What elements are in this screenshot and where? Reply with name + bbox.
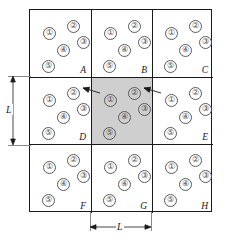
cell-label-A: A <box>80 65 86 75</box>
cell-E: E ①②③④⑤ <box>152 77 213 144</box>
marker-2: ② <box>67 87 80 100</box>
marker-1: ① <box>104 161 117 174</box>
marker-5: ⑤ <box>42 60 55 73</box>
marker-1: ① <box>43 94 56 107</box>
marker-2: ② <box>128 154 141 167</box>
marker-3: ③ <box>77 170 90 183</box>
marker-3: ③ <box>199 103 212 116</box>
cell-label-H: H <box>201 201 208 211</box>
dimension-extension-right <box>151 212 152 231</box>
marker-4: ④ <box>57 111 70 124</box>
marker-3: ③ <box>199 170 212 183</box>
marker-3: ③ <box>138 103 151 116</box>
marker-2: ② <box>189 154 202 167</box>
marker-2: ② <box>67 20 80 33</box>
marker-2: ② <box>128 20 141 33</box>
cell-label-D: D <box>79 132 86 142</box>
cell-center-shaded: ①②③④⑤ <box>91 77 152 144</box>
marker-1: ① <box>104 94 117 107</box>
dimension-label-vertical: L <box>5 104 13 115</box>
cell-A: A ①②③④⑤ <box>30 10 91 77</box>
marker-3: ③ <box>77 103 90 116</box>
marker-5: ⑤ <box>164 194 177 207</box>
marker-4: ④ <box>179 178 192 191</box>
periodic-cell-figure: A ①②③④⑤ B ①②③④⑤ C ①②③④⑤ D ①②③④⑤ ①②③④⑤ E … <box>0 0 230 241</box>
marker-5: ⑤ <box>164 60 177 73</box>
dimension-extension-left <box>90 212 91 231</box>
marker-4: ④ <box>118 111 131 124</box>
grid-divider-vertical-1 <box>91 10 92 213</box>
marker-3: ③ <box>138 170 151 183</box>
cell-label-C: C <box>202 65 208 75</box>
cell-label-E: E <box>202 132 208 142</box>
marker-2: ② <box>189 87 202 100</box>
marker-2: ② <box>67 154 80 167</box>
cell-label-G: G <box>140 201 147 211</box>
marker-1: ① <box>165 161 178 174</box>
cell-D: D ①②③④⑤ <box>30 77 91 144</box>
marker-4: ④ <box>57 178 70 191</box>
marker-1: ① <box>43 27 56 40</box>
marker-4: ④ <box>118 178 131 191</box>
grid-divider-horizontal-1 <box>30 77 213 78</box>
dimension-extension-top <box>8 76 31 77</box>
marker-5: ⑤ <box>164 127 177 140</box>
marker-4: ④ <box>118 44 131 57</box>
marker-3: ③ <box>138 36 151 49</box>
cell-label-B: B <box>141 65 147 75</box>
marker-5: ⑤ <box>103 194 116 207</box>
grid-divider-horizontal-2 <box>30 144 213 145</box>
marker-5: ⑤ <box>42 194 55 207</box>
marker-3: ③ <box>77 36 90 49</box>
marker-1: ① <box>43 161 56 174</box>
marker-5: ⑤ <box>103 60 116 73</box>
cell-F: F ①②③④⑤ <box>30 144 91 213</box>
cell-grid: A ①②③④⑤ B ①②③④⑤ C ①②③④⑤ D ①②③④⑤ ①②③④⑤ E … <box>29 9 212 212</box>
marker-4: ④ <box>179 111 192 124</box>
cell-label-F: F <box>80 201 86 211</box>
dimension-extension-bottom <box>8 145 31 146</box>
marker-5: ⑤ <box>103 127 116 140</box>
grid-divider-vertical-2 <box>152 10 153 213</box>
cell-G: G ①②③④⑤ <box>91 144 152 213</box>
marker-3: ③ <box>199 36 212 49</box>
marker-1: ① <box>165 27 178 40</box>
marker-4: ④ <box>57 44 70 57</box>
marker-1: ① <box>165 94 178 107</box>
marker-2: ② <box>189 20 202 33</box>
marker-4: ④ <box>179 44 192 57</box>
marker-2: ② <box>128 87 141 100</box>
marker-5: ⑤ <box>42 127 55 140</box>
cell-C: C ①②③④⑤ <box>152 10 213 77</box>
cell-H: H ①②③④⑤ <box>152 144 213 213</box>
dimension-label-horizontal: L <box>116 221 124 232</box>
cell-B: B ①②③④⑤ <box>91 10 152 77</box>
marker-1: ① <box>104 27 117 40</box>
